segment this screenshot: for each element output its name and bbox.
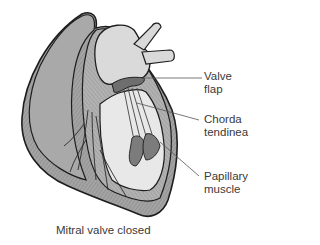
- pulmonary-vein-lower: [142, 50, 174, 64]
- left-atrium: [95, 25, 150, 84]
- label-chorda-tendinea: Chorda tendinea: [204, 113, 248, 139]
- label-line: tendinea: [204, 126, 248, 139]
- label-line: Chorda: [204, 113, 248, 126]
- label-valve-flap: Valve flap: [204, 70, 232, 96]
- label-line: flap: [204, 83, 232, 96]
- figure-caption: Mitral valve closed: [56, 224, 151, 236]
- label-line: Papillary: [204, 170, 248, 183]
- label-line: muscle: [204, 183, 248, 196]
- label-line: Valve: [204, 70, 232, 83]
- label-papillary-muscle: Papillary muscle: [204, 170, 248, 196]
